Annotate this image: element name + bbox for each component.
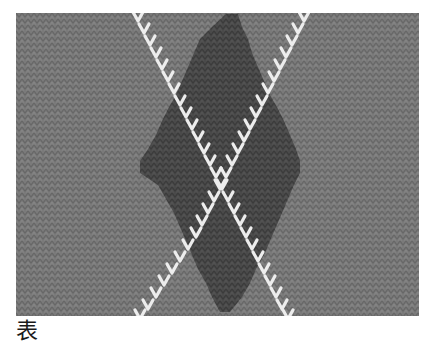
knit-swatch-image — [16, 13, 419, 316]
argyle-knit-swatch — [16, 13, 419, 316]
figure-caption: 表 — [16, 318, 38, 344]
